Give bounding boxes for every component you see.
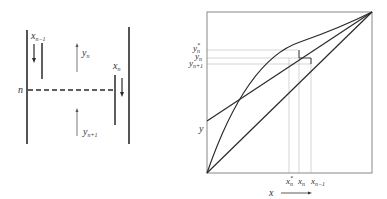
label-y-n: yn bbox=[81, 47, 89, 59]
arrowhead-down-icon bbox=[120, 92, 124, 97]
x-tick-x-n: xn bbox=[297, 176, 305, 187]
label-x-prev: xn−1 bbox=[30, 30, 46, 42]
arrowhead-down-icon bbox=[32, 58, 36, 63]
label-x-n: xn bbox=[112, 60, 120, 72]
label-stage-n: n bbox=[18, 84, 23, 95]
operating-line bbox=[207, 12, 372, 121]
diagonal-line bbox=[207, 12, 372, 173]
y-tick-y-n: yn bbox=[194, 51, 202, 62]
equilibrium-plot: y*n yn yn+1 x*n xn xn−1 x y bbox=[188, 12, 372, 198]
x-axis-label: x bbox=[268, 187, 274, 198]
y-axis-label: y bbox=[198, 123, 204, 134]
label-y-next: yn+1 bbox=[82, 126, 98, 138]
stage-step bbox=[299, 50, 311, 64]
arrowhead-up-icon bbox=[76, 43, 79, 47]
x-tick-x-prev: xn−1 bbox=[310, 176, 325, 187]
guide-lines bbox=[207, 50, 311, 173]
stage-diagram: xn−1 yn xn n yn+1 y*n yn yn+1 x*n bbox=[0, 0, 387, 199]
arrowhead-up-icon bbox=[76, 108, 79, 112]
arrowhead-right-icon bbox=[308, 192, 312, 195]
column-stage-schematic: xn−1 yn xn n yn+1 bbox=[18, 27, 129, 144]
x-tick-x-star-n: x*n bbox=[285, 175, 293, 187]
